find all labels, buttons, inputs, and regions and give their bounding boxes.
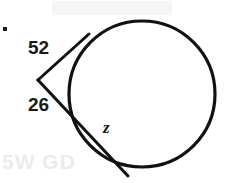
circle-tangent-secant-svg — [0, 0, 227, 183]
external-vertex-point — [37, 79, 40, 82]
geometry-figure: 52 26 z 5W GD — [0, 0, 227, 183]
chord-label-z: z — [103, 119, 110, 136]
circle-shape — [69, 21, 215, 167]
arc-label-upper: 52 — [28, 38, 49, 57]
secant-line — [38, 80, 128, 176]
arc-label-lower: 26 — [28, 95, 49, 114]
